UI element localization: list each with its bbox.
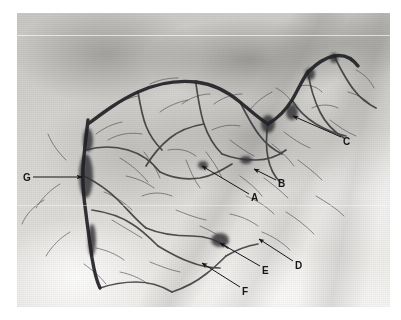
annotation-leader-d [259,239,293,261]
annotation-label-b: B [278,179,285,189]
annotation-label-d: D [295,261,302,271]
annotation-leader-e [220,243,260,266]
annotation-label-g: G [23,173,31,183]
annotation-leader-a [202,166,249,194]
annotation-leader-f [202,263,240,287]
annotation-label-e: E [262,266,269,276]
annotation-leader-b [254,169,276,180]
angiogram-figure: ABCDEFG [0,0,401,320]
annotation-overlay [0,0,401,320]
annotation-label-a: A [251,193,258,203]
annotation-leader-c [293,116,341,137]
annotation-label-c: C [343,137,350,147]
annotation-label-f: F [242,287,248,297]
